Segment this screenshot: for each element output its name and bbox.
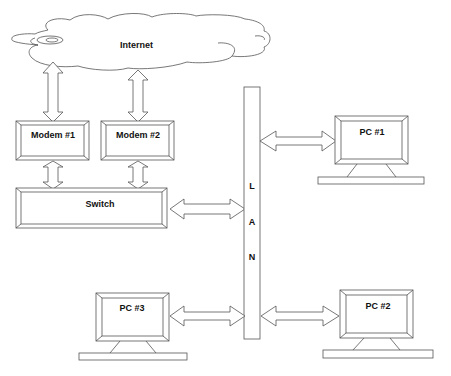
arrow-pc3-lan xyxy=(170,306,245,326)
modem-2-label: Modem #2 xyxy=(116,130,160,140)
arrow-lan-pc1 xyxy=(260,131,336,151)
arrow-internet-modem1 xyxy=(43,62,63,122)
internet-label: Internet xyxy=(120,40,153,50)
modem-2-box xyxy=(101,121,174,160)
lan-letter-n: N xyxy=(249,252,256,262)
modem-1-box xyxy=(16,121,89,160)
arrow-switch-lan xyxy=(170,199,245,219)
arrow-modem2-switch xyxy=(128,161,148,189)
arrow-internet-modem2 xyxy=(128,70,148,122)
lan-letter-a: A xyxy=(249,217,256,227)
pc-3-label: PC #3 xyxy=(119,303,144,313)
network-diagram: Internet Modem #1 Modem #2 xyxy=(0,0,451,376)
pc-2-label: PC #2 xyxy=(365,301,390,311)
pc-1-label: PC #1 xyxy=(359,127,384,137)
arrow-modem1-switch xyxy=(43,161,63,189)
lan-bar xyxy=(244,87,260,339)
modem-1-label: Modem #1 xyxy=(31,130,75,140)
switch-label: Switch xyxy=(85,199,114,209)
lan-letter-l: L xyxy=(249,181,255,191)
arrow-lan-pc2 xyxy=(261,306,339,326)
